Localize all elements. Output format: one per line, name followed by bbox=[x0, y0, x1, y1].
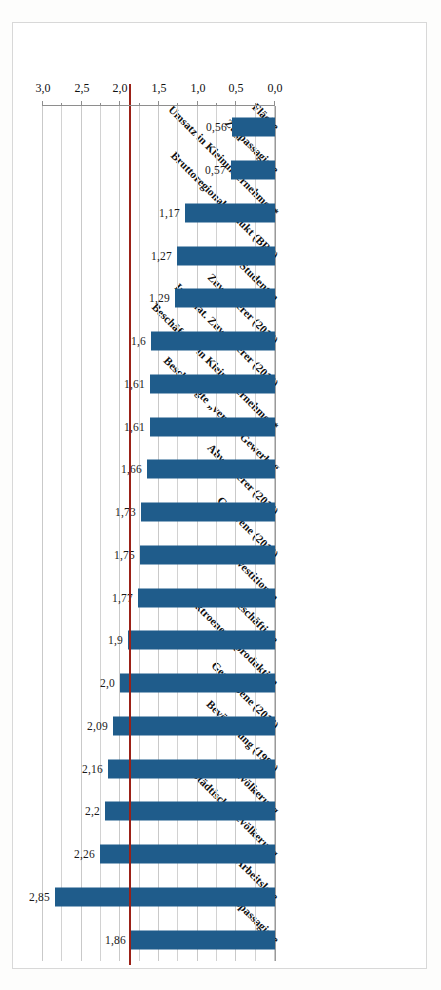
bar-series: 1,862,852,262,22,162,092,01,91,771,751,7… bbox=[43, 106, 275, 961]
rotated-chart-canvas: BuspassagiereArbeitsloseStädtische Bevöl… bbox=[12, 22, 427, 969]
value-tick-label: 0,5 bbox=[223, 81, 249, 96]
value-tick bbox=[61, 103, 62, 106]
bar-value-label: 2,16 bbox=[82, 763, 103, 775]
bar-value-label: 2,09 bbox=[87, 720, 108, 732]
bar-row: 2,85 bbox=[43, 876, 275, 919]
bar bbox=[141, 503, 275, 522]
bar-row: 1,29 bbox=[43, 277, 275, 320]
category-axis: BuspassagiereArbeitsloseStädtische Bevöl… bbox=[275, 106, 427, 961]
bar-value-label: 1,61 bbox=[125, 421, 146, 433]
bar-value-label: 2,85 bbox=[29, 891, 50, 903]
bar-row: 1,73 bbox=[43, 491, 275, 534]
bar-value-label: 1,9 bbox=[108, 634, 123, 646]
value-tick bbox=[216, 103, 217, 106]
bar bbox=[151, 417, 276, 436]
bar-row: 0,56 bbox=[43, 106, 275, 149]
bar bbox=[232, 118, 275, 137]
bar bbox=[140, 545, 275, 564]
value-axis-line bbox=[43, 105, 275, 106]
bar bbox=[151, 374, 276, 393]
bar-row: 1,17 bbox=[43, 192, 275, 235]
bar-row: 0,57 bbox=[43, 149, 275, 192]
bar bbox=[147, 460, 275, 479]
bar-row: 2,26 bbox=[43, 833, 275, 876]
value-tick-label: 2,0 bbox=[107, 81, 133, 96]
bar-value-label: 1,17 bbox=[159, 207, 180, 219]
category-axis-spine bbox=[275, 106, 276, 961]
bar-value-label: 1,66 bbox=[121, 463, 142, 475]
bar-value-label: 1,75 bbox=[114, 549, 135, 561]
bar-value-label: 1,86 bbox=[105, 934, 126, 946]
bar-row: 2,0 bbox=[43, 662, 275, 705]
value-tick bbox=[235, 101, 236, 106]
value-tick bbox=[119, 101, 120, 106]
bar-value-label: 1,61 bbox=[125, 378, 146, 390]
bar-row: 1,27 bbox=[43, 234, 275, 277]
bar bbox=[177, 246, 275, 265]
bar-row: 1,77 bbox=[43, 576, 275, 619]
value-tick bbox=[100, 103, 101, 106]
bar-row: 1,75 bbox=[43, 534, 275, 577]
bar bbox=[113, 716, 275, 735]
value-tick-label: 0,0 bbox=[262, 81, 288, 96]
bar-chart: BuspassagiereArbeitsloseStädtische Bevöl… bbox=[12, 22, 427, 969]
bar bbox=[151, 332, 275, 351]
bar-value-label: 1,6 bbox=[131, 335, 146, 347]
bar bbox=[55, 887, 275, 906]
bar bbox=[175, 289, 275, 308]
value-tick bbox=[177, 103, 178, 106]
bar-row: 2,2 bbox=[43, 790, 275, 833]
bar bbox=[131, 930, 275, 949]
value-tick bbox=[139, 103, 140, 106]
bar bbox=[108, 759, 275, 778]
bar-value-label: 2,26 bbox=[74, 848, 95, 860]
bar bbox=[231, 161, 275, 180]
bar-row: 1,61 bbox=[43, 405, 275, 448]
reference-line bbox=[129, 84, 131, 965]
bar-row: 1,66 bbox=[43, 448, 275, 491]
value-tick-label: 2,5 bbox=[69, 81, 95, 96]
bar-value-label: 1,29 bbox=[149, 292, 170, 304]
bar bbox=[120, 674, 275, 693]
bar-value-label: 0,57 bbox=[205, 164, 226, 176]
bar-row: 1,61 bbox=[43, 363, 275, 406]
bar bbox=[128, 631, 275, 650]
bar-row: 1,86 bbox=[43, 918, 275, 961]
bar bbox=[138, 588, 275, 607]
bar-row: 1,9 bbox=[43, 619, 275, 662]
value-tick bbox=[42, 101, 43, 106]
bar-value-label: 2,0 bbox=[100, 677, 115, 689]
bar-value-label: 1,73 bbox=[115, 506, 136, 518]
bar-value-label: 0,56 bbox=[206, 121, 227, 133]
chart-page: BuspassagiereArbeitsloseStädtische Bevöl… bbox=[0, 0, 441, 990]
value-tick bbox=[274, 101, 275, 106]
value-tick-label: 3,0 bbox=[30, 81, 56, 96]
bar-row: 2,09 bbox=[43, 705, 275, 748]
value-tick-label: 1,5 bbox=[146, 81, 172, 96]
value-tick bbox=[81, 101, 82, 106]
bar-value-label: 2,2 bbox=[85, 805, 100, 817]
value-tick bbox=[197, 101, 198, 106]
bar-row: 2,16 bbox=[43, 747, 275, 790]
bar-value-label: 1,27 bbox=[151, 250, 172, 262]
bar-row: 1,6 bbox=[43, 320, 275, 363]
bar bbox=[100, 845, 275, 864]
value-axis: 0,00,51,01,52,02,53,0 bbox=[43, 62, 275, 106]
value-tick bbox=[158, 101, 159, 106]
plot-area: 1,862,852,262,22,162,092,01,91,771,751,7… bbox=[43, 106, 275, 961]
value-tick bbox=[255, 103, 256, 106]
value-tick-label: 1,0 bbox=[185, 81, 211, 96]
bar bbox=[185, 203, 275, 222]
